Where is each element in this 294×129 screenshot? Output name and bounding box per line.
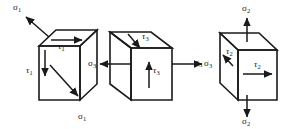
cube-2-tau-top-arrow — [128, 34, 140, 48]
label-cube1-sigma-bottom: σ1 — [78, 112, 86, 121]
sigma-subscript: 1 — [83, 115, 86, 122]
tau-subscript: 1 — [61, 45, 64, 52]
tau-subscript: 2 — [257, 63, 260, 70]
stress-element-figure: σ1 τ1 τ1 σ1 τ3 σ3 τ3 σ3 σ2 σ3 τ2 τ2 σ2 — [0, 0, 294, 129]
label-cube2-tau-front: τ3 — [153, 66, 159, 75]
sigma-subscript: 3 — [93, 62, 96, 69]
sigma-subscript: 1 — [18, 6, 21, 13]
cube-2-left-face — [110, 32, 131, 100]
tau-subscript: 3 — [145, 35, 148, 42]
label-cube1-tau-left: τ1 — [26, 66, 32, 75]
tau-subscript: 3 — [156, 69, 159, 76]
label-cube2-tau-top: τ3 — [142, 32, 148, 41]
cube-2-front-face — [131, 48, 172, 100]
label-cube3-sigma-top: σ2 — [242, 4, 250, 13]
cube-2-body — [110, 32, 172, 100]
tau-subscript: 1 — [29, 69, 32, 76]
label-cube2-sigma-right: σ3 — [204, 59, 212, 68]
tau-subscript: 2 — [229, 50, 232, 57]
cube-1-sigma-top-arrow — [26, 17, 49, 37]
label-cube3-tau-front: τ2 — [254, 60, 260, 69]
stress-diagram-canvas — [0, 0, 294, 129]
label-cube1-sigma-top: σ1 — [13, 3, 21, 12]
cube-1-arrows — [26, 17, 82, 96]
label-cube3-tau-left: τ2 — [226, 47, 232, 56]
label-cube2-sigma-left: σ3 — [88, 59, 96, 68]
label-cube1-tau-top: τ1 — [58, 42, 64, 51]
cube-2-arrows — [100, 34, 202, 88]
label-cube3-sigma-bottom: σ2 — [242, 117, 250, 126]
cube-3-body — [220, 33, 277, 100]
sigma-subscript: 3 — [209, 62, 212, 69]
sigma-subscript: 2 — [247, 120, 250, 127]
cube-1-sigma-bottom-arrow — [50, 65, 78, 96]
cube-3-front-face — [238, 50, 277, 100]
sigma-subscript: 2 — [247, 7, 250, 14]
cube-3-left-face — [220, 33, 238, 100]
label-cube3-sigma-left: σ3 — [194, 58, 202, 67]
sigma-subscript: 3 — [199, 61, 202, 68]
